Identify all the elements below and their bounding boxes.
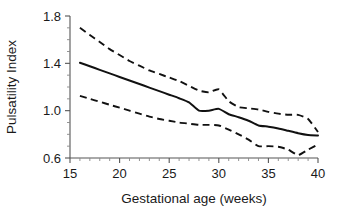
y-tick-label: 0.6 [43, 151, 61, 166]
y-tick-label: 1.4 [43, 56, 61, 71]
pulsatility-index-line-chart: 0.61.01.41.8 152025303540 Pulsatility In… [0, 0, 338, 217]
x-tick-label: 25 [162, 166, 176, 181]
y-tick-label: 1.0 [43, 103, 61, 118]
x-tick-label: 40 [311, 166, 325, 181]
x-tick-label: 30 [212, 166, 226, 181]
x-axis-title: Gestational age (weeks) [121, 191, 267, 206]
x-tick-label: 15 [63, 166, 77, 181]
x-tick-label: 35 [261, 166, 275, 181]
y-tick-label: 1.8 [43, 9, 61, 24]
chart-figure: 0.61.01.41.8 152025303540 Pulsatility In… [0, 0, 338, 217]
y-axis-title: Pulsatility Index [4, 40, 19, 134]
x-tick-label: 20 [112, 166, 126, 181]
